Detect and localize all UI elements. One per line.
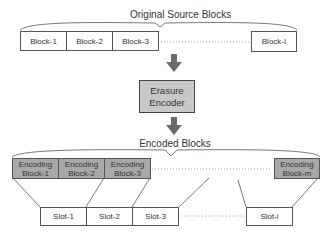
encoder-line-2: Encoder	[149, 97, 184, 109]
source-block-1: Block-1	[20, 31, 67, 51]
encoding-block-id: Block-2	[68, 169, 95, 178]
encoding-block-id: Block-m	[283, 169, 312, 178]
down-arrow-icon	[166, 54, 182, 72]
mapping-lines	[13, 178, 318, 207]
source-brace	[20, 23, 297, 30]
encoding-block-label: Encoding	[280, 160, 313, 169]
encoding-block-1: Encoding Block-1	[12, 158, 59, 179]
slot-3: Slot-3	[132, 207, 179, 226]
encoding-block-label: Encoding	[65, 160, 98, 169]
source-title: Original Source Blocks	[130, 9, 230, 20]
slot-2: Slot-2	[86, 207, 133, 226]
source-block-i: Block-I	[251, 31, 297, 52]
slot-i: Slot-i	[246, 207, 293, 226]
source-block-2: Block-2	[66, 31, 113, 51]
encoding-block-3: Encoding Block-3	[104, 158, 151, 179]
encoding-block-2: Encoding Block-2	[58, 158, 105, 179]
encoding-block-id: Block-1	[22, 169, 49, 178]
down-arrow-icon	[166, 117, 182, 135]
encoding-block-label: Encoding	[19, 160, 52, 169]
erasure-encoder: Erasure Encoder	[139, 80, 195, 113]
source-block-3: Block-3	[112, 31, 159, 51]
encoded-title: Encoded Blocks	[125, 138, 225, 149]
encoder-line-1: Erasure	[150, 85, 183, 97]
encoding-block-m: Encoding Block-m	[274, 158, 320, 179]
encoded-brace	[12, 150, 320, 157]
encoding-block-id: Block-3	[114, 169, 141, 178]
encoding-block-label: Encoding	[111, 160, 144, 169]
slot-1: Slot-1	[40, 207, 87, 226]
